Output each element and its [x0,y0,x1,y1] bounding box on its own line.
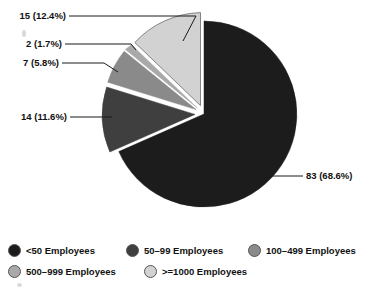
legend-label-500-999: 500–999 Employees [26,266,116,277]
legend-label-50-99: 50–99 Employees [144,245,223,256]
legend-item-50-99[interactable]: 50–99 Employees [126,244,248,257]
legend-swatch-icon-100-499 [248,244,261,257]
legend-label-100-499: 100–499 Employees [266,245,356,256]
data-label-1000-plus: 15 (12.4%) [20,10,66,21]
leader-line-100-499 [62,63,118,72]
legend-label-under-50: <50 Employees [26,245,95,256]
scan-speck [22,30,26,37]
data-label-50-99: 14 (11.6%) [21,111,67,122]
scan-speck [17,283,22,287]
legend-row-1: <50 Employees 50–99 Employees 100–499 Em… [8,240,368,261]
data-label-100-499: 7 (5.8%) [23,57,59,68]
legend-item-100-499[interactable]: 100–499 Employees [248,244,356,257]
legend-item-1000-plus[interactable]: >=1000 Employees [144,265,247,278]
pie-chart-figure: 15 (12.4%) 2 (1.7%) 7 (5.8%) 14 (11.6%) … [0,0,368,294]
legend-swatch-icon-under-50 [8,244,21,257]
legend-label-1000-plus: >=1000 Employees [162,266,247,277]
legend-item-500-999[interactable]: 500–999 Employees [8,265,144,278]
legend-item-under-50[interactable]: <50 Employees [8,244,126,257]
data-label-under-50: 83 (68.6%) [306,170,352,181]
legend-swatch-icon-1000-plus [144,265,157,278]
leader-line-500-999 [65,44,136,50]
data-label-500-999: 2 (1.7%) [26,38,62,49]
legend-swatch-icon-500-999 [8,265,21,278]
chart-legend: <50 Employees 50–99 Employees 100–499 Em… [8,240,368,282]
legend-row-2: 500–999 Employees >=1000 Employees [8,261,368,282]
legend-swatch-icon-50-99 [126,244,139,257]
